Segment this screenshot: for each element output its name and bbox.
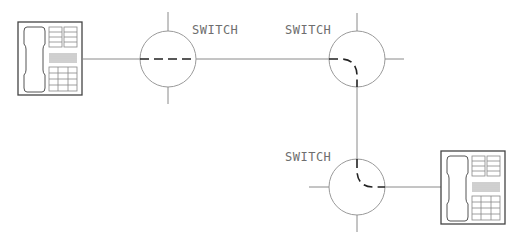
- switch-2: [329, 13, 404, 87]
- switch-3: [309, 159, 385, 232]
- connection-lines: [83, 59, 441, 187]
- switch-1: [140, 12, 196, 104]
- telephone-left-body: [18, 22, 82, 95]
- telephone-left: [18, 22, 82, 95]
- telephone-right: [441, 151, 505, 224]
- diagram-canvas: SWITCH SWITCH SWITCH: [0, 0, 526, 245]
- switch-1-label: SWITCH: [192, 24, 238, 36]
- telephone-right-body: [441, 151, 505, 224]
- switch-3-label: SWITCH: [285, 151, 331, 163]
- switch-2-label: SWITCH: [285, 24, 331, 36]
- network-diagram: [0, 0, 526, 245]
